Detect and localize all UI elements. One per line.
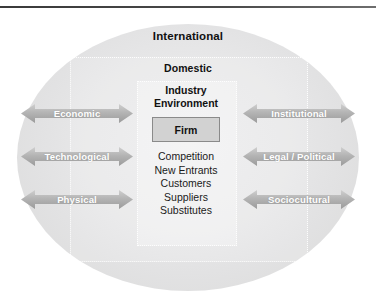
label-international: International [0,30,376,42]
arrow-sociocultural-label: Sociocultural [243,194,355,205]
arrow-technological: Technological [21,146,133,167]
force-item-suppliers: Suppliers [137,191,235,205]
arrow-physical-label: Physical [21,194,133,205]
label-domestic: Domestic [0,62,376,74]
label-industry-line1: Industry [137,84,235,97]
arrow-economic: Economic [21,103,133,124]
arrow-legal-political: Legal / Political [243,146,355,167]
external-environment-diagram: International Domestic Industry Environm… [0,0,376,307]
arrow-physical: Physical [21,189,133,210]
force-item-substitutes: Substitutes [137,204,235,218]
force-item-new-entrants: New Entrants [137,164,235,178]
arrow-sociocultural: Sociocultural [243,189,355,210]
firm-label: Firm [175,124,198,136]
arrow-legal-political-label: Legal / Political [243,151,355,162]
arrow-institutional-label: Institutional [243,108,355,119]
arrow-economic-label: Economic [21,108,133,119]
force-item-customers: Customers [137,177,235,191]
arrow-technological-label: Technological [21,151,133,162]
arrow-institutional: Institutional [243,103,355,124]
industry-forces-list: Competition New Entrants Customers Suppl… [137,150,235,218]
label-industry-line2: Environment [137,97,235,110]
label-industry-environment: Industry Environment [137,84,235,109]
force-item-competition: Competition [137,150,235,164]
firm-box: Firm [152,117,220,142]
